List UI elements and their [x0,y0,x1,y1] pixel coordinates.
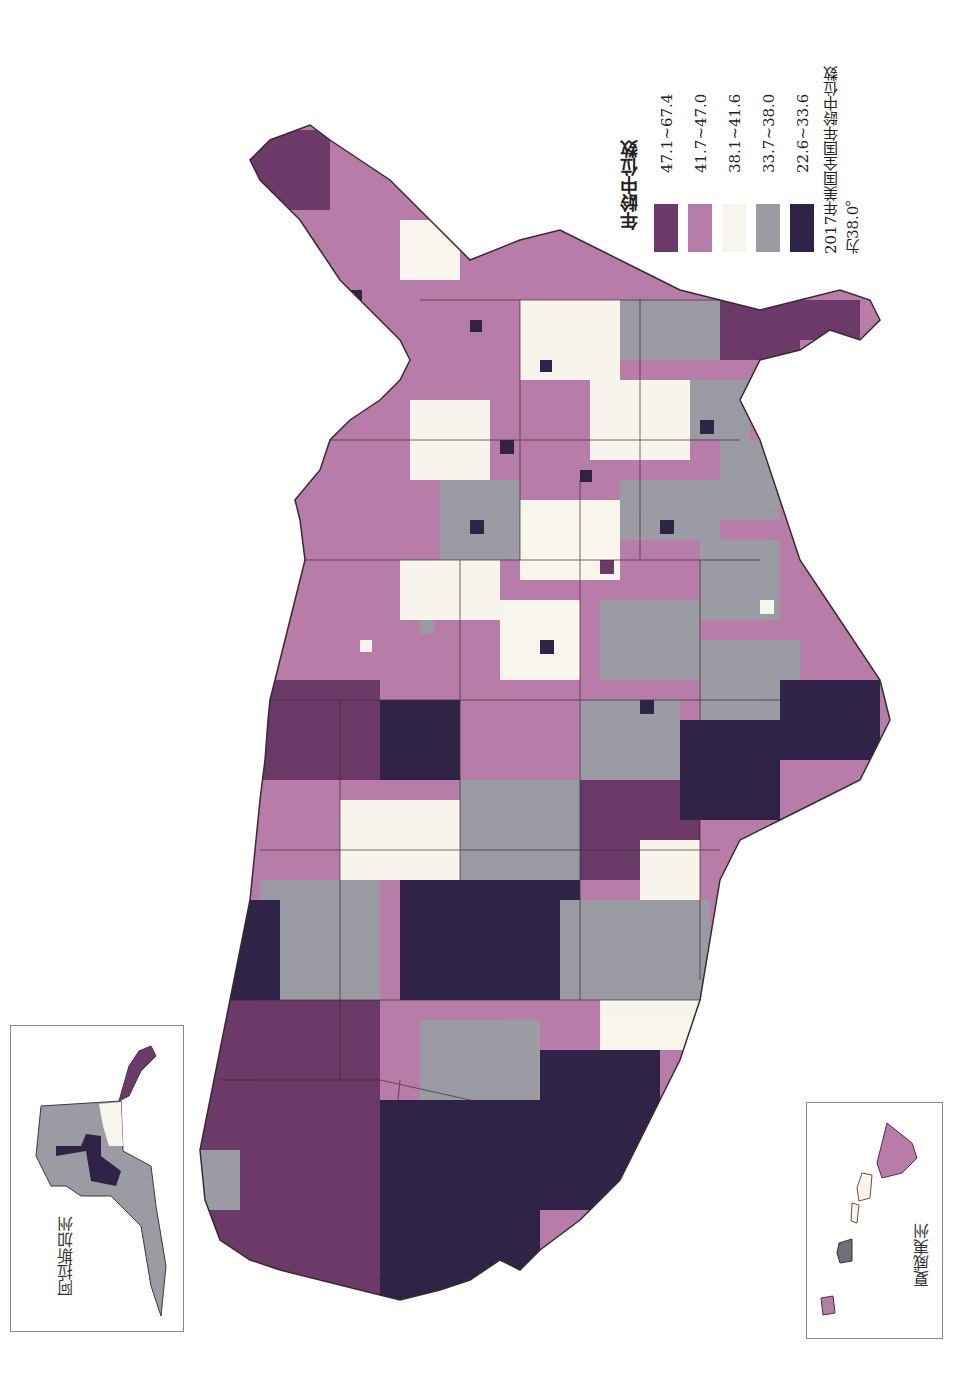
hawaii-label: 夏威夷州 [911,1223,935,1287]
legend-label-3: 33.7~38.0 [760,94,778,204]
alaska-shape [11,1026,183,1331]
legend-swatch-2 [722,204,746,252]
alaska-inset: 阿拉斯加州 [10,1025,184,1332]
legend-note-line2: 为38.0。 [842,4,864,254]
legend-label-0: 47.1~67.4 [658,94,676,204]
legend-swatch-3 [756,204,780,252]
legend-label-1: 41.7~47.0 [692,94,710,204]
alaska-label: 阿拉斯加州 [55,1216,79,1296]
legend-swatch-4 [790,204,814,252]
legend-note-line1: 2017年美国全国年龄中位数 [820,4,842,254]
legend: 年龄中位数 47.1~67.4 41.7~47.0 38.1~41.6 33.7… [610,140,840,310]
legend-title: 年龄中位数 [618,140,644,250]
legend-swatch-0 [654,204,678,252]
legend-swatch-1 [688,204,712,252]
legend-label-2: 38.1~41.6 [726,94,744,204]
legend-label-4: 22.6~33.6 [794,94,812,204]
hawaii-shape [807,1103,942,1338]
hawaii-inset: 夏威夷州 [806,1102,943,1339]
